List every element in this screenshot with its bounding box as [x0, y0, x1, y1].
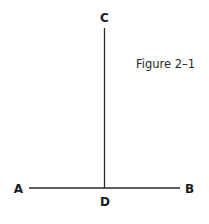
figure-canvas: C A B D Figure 2–1	[0, 0, 209, 224]
point-label-a: A	[14, 182, 24, 196]
point-label-c: C	[100, 11, 109, 25]
figure-caption: Figure 2–1	[136, 57, 195, 71]
point-label-b: B	[185, 182, 194, 196]
point-label-d: D	[100, 195, 110, 209]
